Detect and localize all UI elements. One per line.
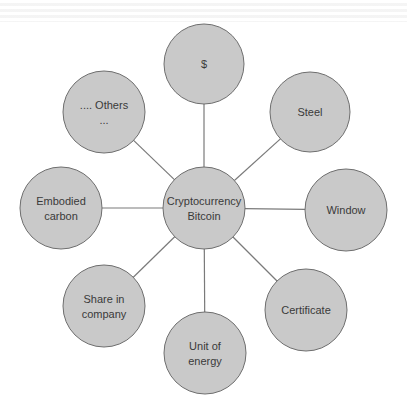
- node-unit-of-energy-label-line-2: energy: [188, 355, 222, 367]
- node-dollar-label-line-1: $: [201, 58, 207, 70]
- node-center-cryptocurrency-label-line-1: Cryptocurrency: [167, 195, 242, 207]
- node-dollar[interactable]: $: [164, 24, 244, 104]
- node-share-in-company-circle: [63, 265, 145, 347]
- edge-steel: [234, 139, 280, 181]
- edge-certificate: [233, 237, 277, 281]
- node-share-in-company-label-line-1: Share in: [84, 293, 125, 305]
- node-embodied-carbon-label-line-1: Embodied: [36, 195, 86, 207]
- node-unit-of-energy-label-line-1: Unit of: [189, 340, 222, 352]
- node-embodied-carbon[interactable]: Embodiedcarbon: [20, 167, 102, 249]
- edge-window: [245, 209, 305, 210]
- node-embodied-carbon-label-line-2: carbon: [44, 210, 78, 222]
- node-center-cryptocurrency-label-line-2: Bitcoin: [187, 210, 220, 222]
- node-embodied-carbon-circle: [20, 167, 102, 249]
- node-share-in-company[interactable]: Share incompany: [63, 265, 145, 347]
- node-steel[interactable]: Steel: [270, 72, 350, 152]
- node-share-in-company-label-line-2: company: [82, 308, 127, 320]
- node-others-circle: [63, 71, 145, 153]
- edge-share-in-company: [133, 237, 174, 278]
- node-certificate[interactable]: Certificate: [265, 269, 347, 351]
- node-circles: $SteelWindowCertificateUnit ofenergyShar…: [20, 24, 387, 394]
- node-steel-label-line-1: Steel: [297, 106, 322, 118]
- cryptocurrency-mind-map: $SteelWindowCertificateUnit ofenergyShar…: [0, 0, 407, 411]
- node-unit-of-energy-circle: [164, 312, 246, 394]
- node-center-cryptocurrency-circle: [163, 167, 245, 249]
- edge-others: [134, 140, 175, 179]
- node-others-label-line-1: .... Others: [80, 99, 129, 111]
- node-center-cryptocurrency[interactable]: CryptocurrencyBitcoin: [163, 167, 245, 249]
- node-others[interactable]: .... Others...: [63, 71, 145, 153]
- node-window-label-line-1: Window: [326, 204, 365, 216]
- node-window[interactable]: Window: [305, 169, 387, 251]
- node-unit-of-energy[interactable]: Unit ofenergy: [164, 312, 246, 394]
- node-certificate-label-line-1: Certificate: [281, 304, 331, 316]
- node-others-label-line-2: ...: [99, 114, 108, 126]
